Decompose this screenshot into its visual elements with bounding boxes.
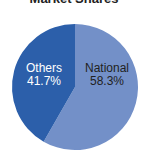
- label-others-pct: 41.7%: [24, 75, 64, 88]
- label-national-pct: 58.3%: [82, 75, 132, 88]
- label-others: Others 41.7%: [24, 62, 64, 88]
- label-national: National 58.3%: [82, 62, 132, 88]
